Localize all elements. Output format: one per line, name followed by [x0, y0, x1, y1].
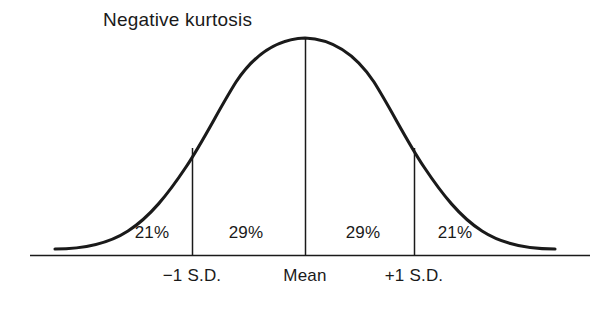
kurtosis-figure: Negative kurtosis 21% 29% 29% 21% −1 S.D… [0, 0, 603, 309]
region-percent-far-right: 21% [438, 224, 473, 241]
axis-tick-label-minus-one-sd: −1 S.D. [163, 267, 222, 284]
chart-title: Negative kurtosis [103, 10, 252, 29]
region-percent-mid-left: 29% [229, 224, 264, 241]
axis-tick-label-plus-one-sd: +1 S.D. [385, 267, 444, 284]
region-percent-far-left: 21% [135, 224, 170, 241]
distribution-plot [0, 0, 603, 309]
region-percent-mid-right: 29% [346, 224, 381, 241]
axis-tick-label-mean: Mean [283, 267, 326, 284]
